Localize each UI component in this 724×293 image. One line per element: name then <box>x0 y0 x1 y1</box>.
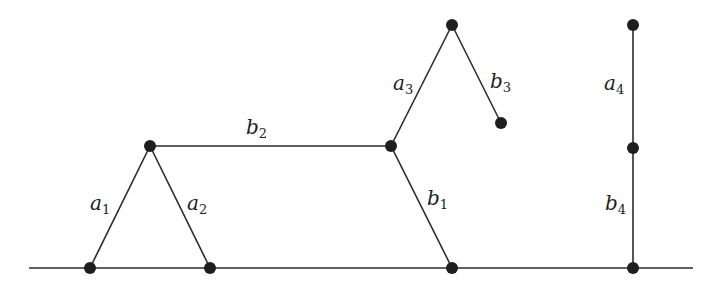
vertex-v9 <box>627 142 639 154</box>
vertex-v4 <box>385 140 397 152</box>
vertex-v6 <box>446 19 458 31</box>
vertex-v3 <box>144 140 156 152</box>
edge-label-b2: b2 <box>246 115 267 141</box>
edge-label-b1: b1 <box>427 186 448 212</box>
vertex-v8 <box>627 19 639 31</box>
vertex-v10 <box>627 262 639 274</box>
edge-label-a4: a4 <box>604 71 624 97</box>
edge-label-a3: a3 <box>393 71 413 97</box>
edge-label-a2: a2 <box>187 191 207 217</box>
edges-group <box>90 25 633 268</box>
edge-label-b4: b4 <box>605 191 626 217</box>
vertex-v2 <box>204 262 216 274</box>
vertex-v5 <box>446 262 458 274</box>
vertex-v1 <box>84 262 96 274</box>
vertex-v7 <box>495 117 507 129</box>
edge-label-a1: a1 <box>90 191 110 217</box>
graph-diagram: a1a2b2b1a3b3a4b4 <box>0 0 724 293</box>
edge-labels-group: a1a2b2b1a3b3a4b4 <box>90 69 626 217</box>
edge-label-b3: b3 <box>490 69 511 95</box>
